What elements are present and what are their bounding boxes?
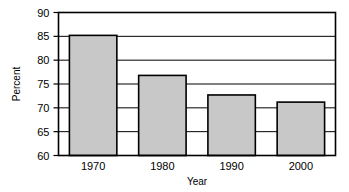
- bar-chart: 60657075808590 1970198019902000 Percent …: [0, 0, 349, 192]
- bar: [139, 75, 186, 155]
- y-tick-label: 80: [37, 54, 49, 66]
- x-tick-label: 1970: [81, 160, 105, 172]
- y-tick-label: 60: [37, 150, 49, 162]
- x-tick-label: 1980: [150, 160, 174, 172]
- chart-canvas: 60657075808590 1970198019902000 Percent …: [0, 0, 349, 192]
- x-tick-label: 2000: [289, 160, 313, 172]
- x-tick-label: 1990: [219, 160, 243, 172]
- y-axis-title: Percent: [11, 67, 22, 102]
- y-tick-label: 90: [37, 7, 49, 19]
- y-tick-label: 75: [37, 78, 49, 90]
- bar: [69, 35, 116, 155]
- bar: [277, 102, 324, 155]
- y-tick-label: 85: [37, 30, 49, 42]
- x-axis-title: Year: [187, 176, 208, 187]
- y-tick-label: 65: [37, 126, 49, 138]
- bar: [208, 95, 255, 156]
- y-tick-label: 70: [37, 102, 49, 114]
